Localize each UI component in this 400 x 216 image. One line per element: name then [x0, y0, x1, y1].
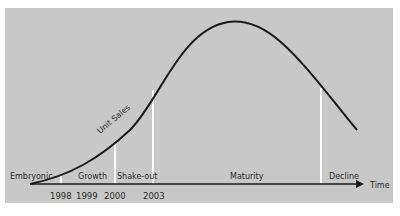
stage-label-embryonic: Embryonic — [10, 172, 53, 181]
year-label-2003: 2003 — [143, 191, 165, 201]
arrow-right-icon — [356, 180, 364, 188]
stage-label-decline: Decline — [329, 172, 359, 181]
year-label-1998: 1998 — [50, 191, 72, 201]
life-cycle-diagram: Unit Sales Embryonic Growth Shake-out Ma… — [0, 0, 400, 216]
axis-label-time: Time — [369, 181, 390, 190]
stage-label-shake-out: Shake-out — [117, 172, 157, 181]
curve-label: Unit Sales — [96, 103, 133, 136]
stage-label-maturity: Maturity — [230, 172, 264, 181]
stage-label-growth: Growth — [78, 172, 107, 181]
year-label-1999: 1999 — [76, 191, 98, 201]
year-label-2000: 2000 — [104, 191, 126, 201]
unit-sales-curve — [30, 21, 357, 184]
